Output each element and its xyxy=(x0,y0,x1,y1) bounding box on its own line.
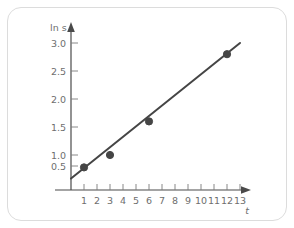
trend-line xyxy=(71,43,240,179)
y-tick-label-1-5: 1.5 xyxy=(51,122,66,133)
x-axis-ticks xyxy=(84,184,240,190)
y-tick-label-3-0: 3.0 xyxy=(51,38,66,49)
chart-svg: 3.0 2.5 2.0 1.5 1.0 0.5 1 2 3 4 5 6 7 8 … xyxy=(8,8,288,222)
x-tick-label-1: 1 xyxy=(81,195,87,206)
y-tick-label-2-0: 2.0 xyxy=(51,94,66,105)
plot-area: 3.0 2.5 2.0 1.5 1.0 0.5 1 2 3 4 5 6 7 8 … xyxy=(8,8,288,222)
x-tick-label-10: 10 xyxy=(195,195,207,206)
y-axis-title: ln s xyxy=(50,22,67,33)
x-tick-label-12: 12 xyxy=(221,195,233,206)
data-point-marker xyxy=(223,51,230,58)
figure-frame: 3.0 2.5 2.0 1.5 1.0 0.5 1 2 3 4 5 6 7 8 … xyxy=(7,7,287,221)
x-tick-label-8: 8 xyxy=(172,195,178,206)
data-point-marker xyxy=(80,164,87,171)
data-point-marker xyxy=(106,151,113,158)
data-point-marker xyxy=(145,118,152,125)
x-tick-label-6: 6 xyxy=(146,195,152,206)
x-tick-label-9: 9 xyxy=(185,195,191,206)
x-tick-label-5: 5 xyxy=(133,195,139,206)
x-tick-label-2: 2 xyxy=(94,195,100,206)
y-axis-ticks xyxy=(71,43,78,166)
y-tick-label-0-5: 0.5 xyxy=(51,161,66,172)
y-tick-label-1-0: 1.0 xyxy=(51,150,66,161)
x-tick-label-11: 11 xyxy=(208,195,220,206)
x-tick-label-3: 3 xyxy=(107,195,113,206)
x-tick-label-7: 7 xyxy=(159,195,165,206)
x-tick-label-4: 4 xyxy=(120,195,126,206)
x-axis-arrow-icon xyxy=(241,186,251,194)
y-axis-arrow-icon xyxy=(67,22,75,32)
y-tick-label-2-5: 2.5 xyxy=(51,66,66,77)
x-axis-title: t xyxy=(245,205,250,216)
